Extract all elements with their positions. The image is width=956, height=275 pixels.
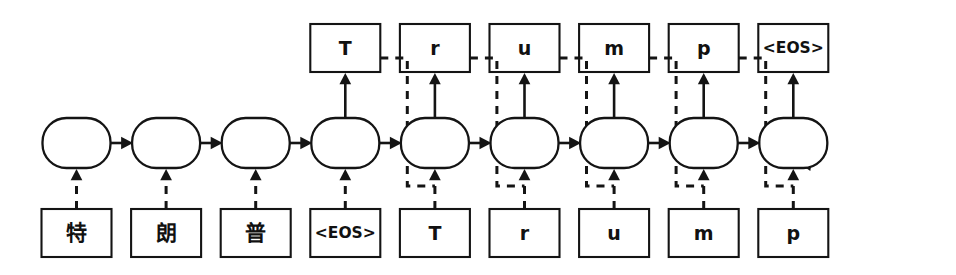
input-to-cell-arrowhead	[71, 169, 83, 180]
rnn-cell	[401, 118, 469, 168]
input-to-cell-arrowhead	[519, 169, 531, 180]
input-token-box	[310, 209, 380, 257]
rnn-cell	[43, 118, 111, 168]
input-to-cell-arrowhead	[160, 169, 172, 180]
output-token-box	[310, 24, 380, 72]
input-token-box	[758, 209, 828, 257]
rnn-cell	[670, 118, 738, 168]
input-token-box	[400, 209, 470, 257]
output-token-box	[400, 24, 470, 72]
cell-to-output-arrowhead	[339, 73, 351, 84]
input-to-cell-arrowhead	[339, 169, 351, 180]
input-to-cell-arrowhead	[250, 169, 262, 180]
rnn-cell	[222, 118, 290, 168]
rnn-cell	[759, 118, 827, 168]
input-to-cell-arrowhead	[429, 169, 441, 180]
cell-to-output-arrowhead	[608, 73, 620, 84]
input-token-box	[490, 209, 560, 257]
input-token-box	[669, 209, 739, 257]
input-to-cell-arrowhead	[608, 169, 620, 180]
output-token-box	[669, 24, 739, 72]
rnn-cell	[132, 118, 200, 168]
cell-to-output-arrowhead	[787, 73, 799, 84]
output-token-box	[579, 24, 649, 72]
rnn-cell	[491, 118, 559, 168]
cell-to-output-arrowhead	[698, 73, 710, 84]
output-token-box	[758, 24, 828, 72]
rnn-cell	[311, 118, 379, 168]
input-token-box	[579, 209, 649, 257]
input-to-cell-arrowhead	[698, 169, 710, 180]
input-token-box	[131, 209, 201, 257]
output-token-box	[490, 24, 560, 72]
cell-to-output-arrowhead	[519, 73, 531, 84]
diagram-svg	[0, 0, 956, 275]
input-token-box	[221, 209, 291, 257]
diagram-canvas: 特朗普<EOS>TrumpTrump<EOS>	[0, 0, 956, 275]
rnn-cell	[580, 118, 648, 168]
input-token-box	[42, 209, 112, 257]
input-to-cell-arrowhead	[787, 169, 799, 180]
cell-to-output-arrowhead	[429, 73, 441, 84]
